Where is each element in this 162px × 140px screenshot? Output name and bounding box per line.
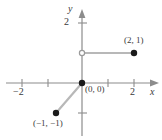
point-label-origin: (0, 0) (85, 85, 105, 94)
point-label-neg1-neg1: (−1, −1) (33, 119, 63, 128)
y-axis-label: y (68, 4, 72, 14)
coordinate-plane-figure: −2 2 2 y x (0, 0) (2, 1) (−1, −1) (0, 0, 162, 140)
open-point-0-1 (79, 50, 84, 55)
x-tick-label-neg2: −2 (13, 87, 24, 97)
filled-point-2-1 (131, 50, 137, 56)
segment-lower-branch (56, 83, 82, 113)
x-axis-label: x (150, 87, 154, 97)
point-label-2-1: (2, 1) (124, 36, 144, 45)
y-tick-label-2: 2 (64, 17, 69, 27)
plot-canvas (0, 0, 162, 140)
y-axis-arrow-icon (79, 9, 86, 18)
filled-point-neg1-neg1 (53, 110, 59, 116)
x-tick-label-2: 2 (130, 87, 135, 97)
